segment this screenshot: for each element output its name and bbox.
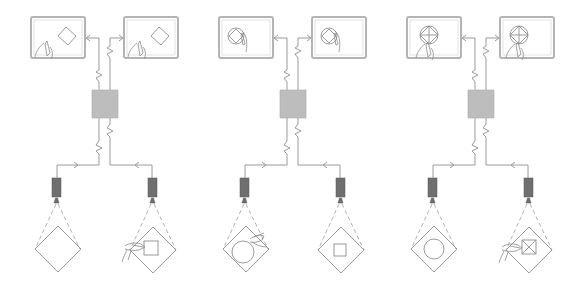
panel-3: [407, 17, 554, 273]
diagram-canvas: Multi-station collaborative drawing syst…: [0, 0, 574, 287]
hand-pen-icon: [122, 243, 145, 262]
drawn-circle: [232, 241, 254, 263]
drawn-square: [144, 241, 158, 255]
drawn-circle: [424, 239, 444, 259]
hand-pen-icon: [499, 244, 522, 263]
panel-1: [31, 17, 178, 273]
drawn-square-with-x: [522, 240, 536, 254]
panel-2: [219, 17, 366, 273]
drawn-square: [334, 244, 346, 256]
